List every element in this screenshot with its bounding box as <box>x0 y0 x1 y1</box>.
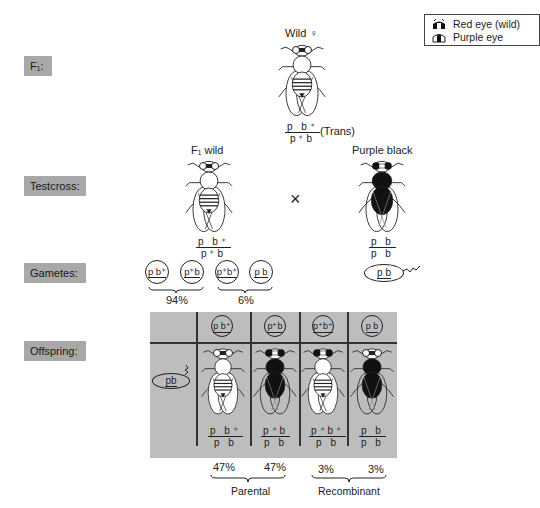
row-label-offspring: Offspring: <box>24 341 86 361</box>
offspring-genotype-2: p⁺b p b <box>261 425 290 448</box>
female-gamete-3: p⁺b⁺ <box>215 260 239 284</box>
red-eye-icon <box>362 349 382 357</box>
sperm-tail-icon <box>182 364 192 376</box>
group-label-parental: Parental <box>231 485 270 497</box>
cross-symbol: × <box>290 189 301 210</box>
purple-eye-icon <box>371 162 393 170</box>
red-eye-icon <box>291 46 313 54</box>
female-gamete-4: p b <box>249 260 273 284</box>
purple-eye-icon <box>265 349 285 357</box>
f1-parent-genotype: p b⁺ p⁺b <box>285 121 320 144</box>
brace-6 <box>217 286 273 294</box>
male-gamete: p b <box>364 264 404 282</box>
offspring-genotype-3: p⁺b⁺ p b <box>309 425 346 448</box>
legend-item-purple-eye: Purple eye <box>431 30 503 43</box>
f1-parent-title: Wild ♀ <box>285 27 318 39</box>
legend-label-red-eye: Red eye (wild) <box>453 18 520 30</box>
testcross-left-title: F₁ wild <box>191 144 223 156</box>
group-label-recombinant: Recombinant <box>318 485 380 497</box>
offspring-genotype-1: p b⁺ p b <box>208 425 243 448</box>
row-label-testcross: Testcross: <box>24 176 86 196</box>
gamete-group-94: 94% <box>166 294 188 306</box>
red-eye-icon <box>213 349 233 357</box>
egg-header-1: p b⁺ <box>211 315 233 337</box>
f1-parent-trans-note: (Trans) <box>320 125 355 137</box>
female-gamete-1: p b⁺ <box>145 260 169 284</box>
row-label-gametes: Gametes: <box>24 263 86 283</box>
purple-eye-icon <box>431 31 447 43</box>
brace-recombinant <box>311 474 387 483</box>
offspring-percent-1: 47% <box>213 461 235 473</box>
sperm-tail-icon <box>403 264 421 274</box>
egg-header-3: p⁺b⁺ <box>312 315 334 337</box>
egg-header-2: p⁺b <box>264 315 286 337</box>
legend-label-purple-eye: Purple eye <box>453 31 503 43</box>
brace-parental <box>210 474 286 483</box>
offspring-percent-2: 47% <box>264 461 286 473</box>
brace-94 <box>148 286 204 294</box>
offspring-genotype-4: p b p b <box>359 425 386 448</box>
testcross-left-genotype: p b⁺ p⁺b <box>196 236 231 259</box>
testcross-right-genotype: p b p b <box>369 236 396 259</box>
red-eye-icon <box>431 18 447 30</box>
red-eye-icon <box>198 162 220 170</box>
row-label-f1: F₁: <box>24 56 52 76</box>
egg-header-4: p b <box>361 315 383 337</box>
legend-item-red-eye: Red eye (wild) <box>431 17 520 30</box>
legend: Red eye (wild) Purple eye <box>424 14 540 46</box>
purple-eye-icon <box>313 349 333 357</box>
gamete-group-6: 6% <box>238 294 254 306</box>
testcross-right-title: Purple black <box>352 144 413 156</box>
female-gamete-2: p⁺b <box>180 260 204 284</box>
